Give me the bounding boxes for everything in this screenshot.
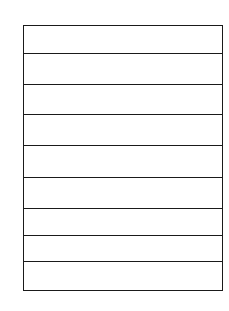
row-divider xyxy=(24,84,222,85)
row-divider xyxy=(24,53,222,54)
stacked-row-box xyxy=(23,25,223,291)
row-divider xyxy=(24,114,222,115)
row-divider xyxy=(24,177,222,178)
row-divider xyxy=(24,235,222,236)
row-divider xyxy=(24,145,222,146)
row-divider xyxy=(24,208,222,209)
row-divider xyxy=(24,261,222,262)
